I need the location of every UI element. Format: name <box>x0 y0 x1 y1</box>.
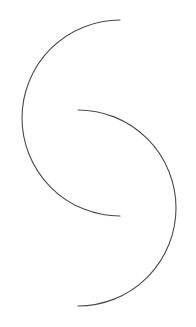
lower-arc <box>78 110 176 306</box>
s-curve-diagram <box>0 0 196 327</box>
upper-arc <box>22 20 120 216</box>
